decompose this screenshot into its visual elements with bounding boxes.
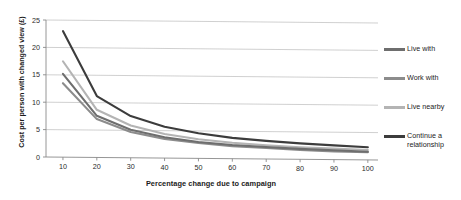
svg-text:5: 5 <box>36 125 40 134</box>
y-axis-ticks: 0510152025 <box>32 16 46 162</box>
svg-text:40: 40 <box>161 163 169 172</box>
legend-color-swatch <box>384 77 405 80</box>
legend-color-swatch <box>384 48 405 51</box>
x-axis-title: Percentage change due to campaign <box>44 179 378 188</box>
legend-item[interactable]: Work with <box>384 73 461 89</box>
svg-text:25: 25 <box>32 16 40 25</box>
line-chart: Cost per person with changed view (£) 05… <box>0 0 461 200</box>
series-line <box>63 61 368 150</box>
svg-text:30: 30 <box>127 162 135 171</box>
svg-text:0: 0 <box>36 153 40 162</box>
legend-color-swatch <box>384 106 405 109</box>
svg-text:50: 50 <box>194 163 202 172</box>
legend-item-label: Continue a relationship <box>407 131 461 149</box>
legend-item-label: Live with <box>407 44 435 53</box>
axis-lines <box>46 20 378 160</box>
legend-item-label: Work with <box>407 73 439 82</box>
svg-text:100: 100 <box>362 164 374 173</box>
svg-text:60: 60 <box>228 163 236 172</box>
svg-text:10: 10 <box>32 98 40 107</box>
legend-item[interactable]: Live nearby <box>384 102 461 118</box>
svg-text:90: 90 <box>330 164 338 173</box>
svg-text:10: 10 <box>59 162 67 171</box>
chart-legend: Live withWork withLive nearbyContinue a … <box>384 44 461 160</box>
legend-color-swatch <box>384 135 405 138</box>
svg-text:20: 20 <box>32 43 40 52</box>
legend-item[interactable]: Live with <box>384 44 461 60</box>
svg-text:70: 70 <box>262 163 270 172</box>
legend-item[interactable]: Continue a relationship <box>384 131 461 147</box>
legend-item-label: Live nearby <box>407 102 444 111</box>
svg-text:80: 80 <box>296 164 304 173</box>
svg-text:15: 15 <box>32 70 40 79</box>
svg-text:20: 20 <box>93 162 101 171</box>
